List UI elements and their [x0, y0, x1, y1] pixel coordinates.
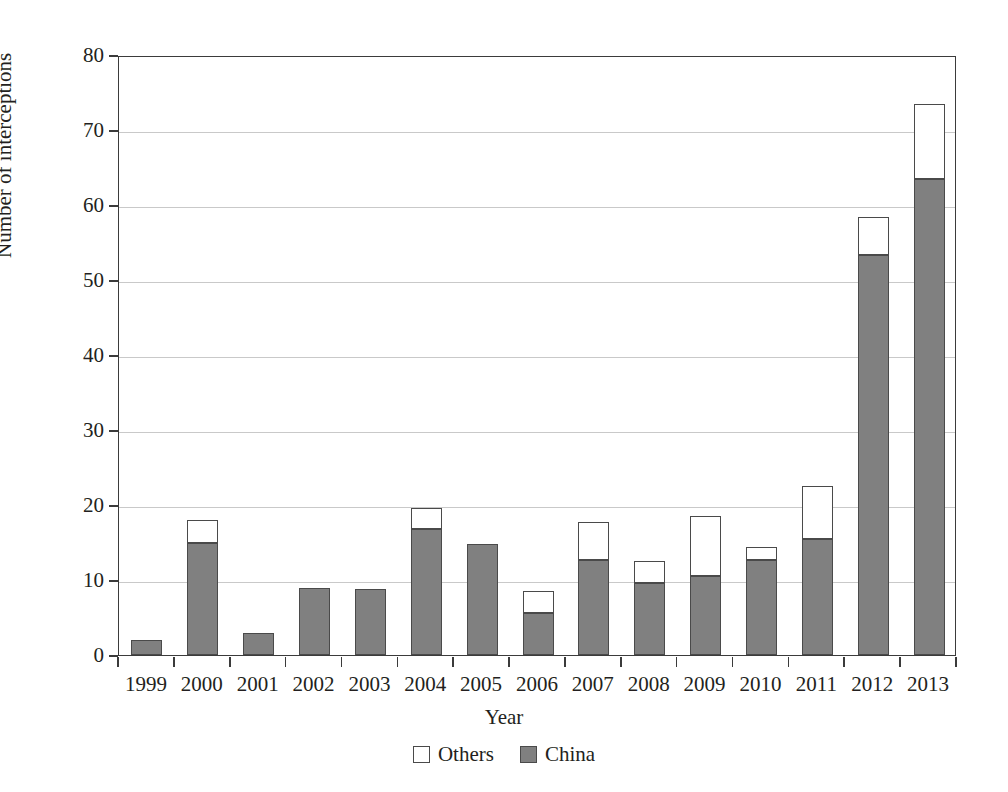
x-axis-tick-mark — [899, 657, 901, 667]
gridline — [119, 207, 955, 208]
bar-segment-china[interactable] — [131, 640, 162, 655]
chart-legend: OthersChina — [0, 742, 1008, 767]
bar-segment-others[interactable] — [411, 508, 442, 529]
y-axis-tick-label: 60 — [60, 195, 104, 216]
bar-2012[interactable] — [858, 217, 889, 655]
x-axis-tick-label: 2007 — [565, 672, 621, 697]
y-axis-tick-mark — [109, 205, 118, 207]
gridline — [119, 357, 955, 358]
bar-segment-others[interactable] — [690, 516, 721, 577]
bar-2000[interactable] — [187, 520, 218, 655]
gray-square-swatch — [520, 746, 537, 763]
bar-segment-china[interactable] — [914, 179, 945, 655]
bar-segment-others[interactable] — [578, 522, 609, 560]
bar-segment-china[interactable] — [578, 560, 609, 655]
bar-2001[interactable] — [243, 633, 274, 656]
x-axis-tick-mark — [117, 657, 119, 667]
y-axis-tick-mark — [109, 505, 118, 507]
gridline — [119, 432, 955, 433]
x-axis-tick-label: 2001 — [230, 672, 286, 697]
y-axis-tick-label: 40 — [60, 345, 104, 366]
bar-segment-china[interactable] — [187, 543, 218, 655]
x-axis-tick-label: 2009 — [677, 672, 733, 697]
x-axis-tick-label: 2006 — [509, 672, 565, 697]
bar-2007[interactable] — [578, 522, 609, 656]
x-axis-tick-label: 2010 — [733, 672, 789, 697]
bar-segment-others[interactable] — [634, 561, 665, 583]
bar-segment-others[interactable] — [914, 104, 945, 179]
y-axis-tick-mark — [109, 430, 118, 432]
y-axis-tick-label: 10 — [60, 570, 104, 591]
bar-segment-china[interactable] — [243, 633, 274, 656]
chart-canvas: Number of interceptions 0102030405060708… — [0, 0, 1008, 792]
legend-item-china[interactable]: China — [520, 742, 595, 767]
bar-segment-others[interactable] — [523, 591, 554, 613]
x-axis-tick-mark — [229, 657, 231, 667]
x-axis-tick-label: 2012 — [844, 672, 900, 697]
y-axis-tick-label: 0 — [60, 645, 104, 666]
y-axis-tick-mark — [109, 580, 118, 582]
legend-item-label: Others — [438, 742, 494, 767]
x-axis-tick-mark — [285, 657, 287, 667]
x-axis-tick-mark — [620, 657, 622, 667]
x-axis-tick-mark — [341, 657, 343, 667]
gridline — [119, 282, 955, 283]
x-axis-tick-label: 2003 — [341, 672, 397, 697]
gridline — [119, 132, 955, 133]
x-axis-tick-mark — [843, 657, 845, 667]
bar-2005[interactable] — [467, 544, 498, 655]
bar-segment-others[interactable] — [858, 217, 889, 255]
bar-segment-others[interactable] — [187, 520, 218, 543]
y-axis-tick-mark — [109, 280, 118, 282]
y-axis-tick-label: 70 — [60, 120, 104, 141]
x-axis-tick-mark — [564, 657, 566, 667]
y-axis-title: Number of interceptions — [0, 0, 17, 258]
bar-segment-china[interactable] — [523, 613, 554, 655]
x-axis-tick-mark — [788, 657, 790, 667]
bar-2011[interactable] — [802, 486, 833, 655]
bar-2010[interactable] — [746, 547, 777, 655]
x-axis-tick-label: 1999 — [118, 672, 174, 697]
legend-item-others[interactable]: Others — [413, 742, 494, 767]
x-axis-tick-label: 2002 — [286, 672, 342, 697]
bar-2013[interactable] — [914, 104, 945, 655]
x-axis-tick-label: 2013 — [900, 672, 956, 697]
bar-segment-china[interactable] — [355, 589, 386, 655]
x-axis-tick-mark — [732, 657, 734, 667]
bar-segment-china[interactable] — [690, 576, 721, 655]
bar-segment-china[interactable] — [858, 255, 889, 656]
x-axis-tick-mark — [676, 657, 678, 667]
bar-segment-china[interactable] — [299, 588, 330, 655]
x-axis-tick-label: 2004 — [397, 672, 453, 697]
white-square-swatch — [413, 746, 430, 763]
bar-2003[interactable] — [355, 589, 386, 655]
bar-2004[interactable] — [411, 508, 442, 655]
y-axis-tick-label: 50 — [60, 270, 104, 291]
bar-segment-china[interactable] — [411, 529, 442, 655]
x-axis-tick-label: 2011 — [788, 672, 844, 697]
bar-2006[interactable] — [523, 591, 554, 655]
y-axis-tick-mark — [109, 55, 118, 57]
y-axis-tick-mark — [109, 130, 118, 132]
bar-2002[interactable] — [299, 588, 330, 655]
plot-area — [118, 56, 956, 656]
x-axis-title: Year — [0, 705, 1008, 730]
x-axis-tick-mark — [508, 657, 510, 667]
bar-segment-china[interactable] — [746, 560, 777, 655]
y-axis-tick-mark — [109, 355, 118, 357]
x-axis-tick-label: 2000 — [174, 672, 230, 697]
bar-1999[interactable] — [131, 640, 162, 655]
y-axis-tick-label: 20 — [60, 495, 104, 516]
bar-segment-china[interactable] — [467, 544, 498, 655]
x-axis-tick-mark — [955, 657, 957, 667]
bar-segment-others[interactable] — [802, 486, 833, 539]
x-axis-tick-label: 2005 — [453, 672, 509, 697]
y-axis-tick-label: 80 — [60, 45, 104, 66]
bar-segment-china[interactable] — [634, 583, 665, 655]
bar-2008[interactable] — [634, 561, 665, 655]
bar-segment-others[interactable] — [746, 547, 777, 560]
bar-segment-china[interactable] — [802, 539, 833, 655]
bar-2009[interactable] — [690, 516, 721, 656]
x-axis-tick-mark — [452, 657, 454, 667]
y-axis-tick-label: 30 — [60, 420, 104, 441]
